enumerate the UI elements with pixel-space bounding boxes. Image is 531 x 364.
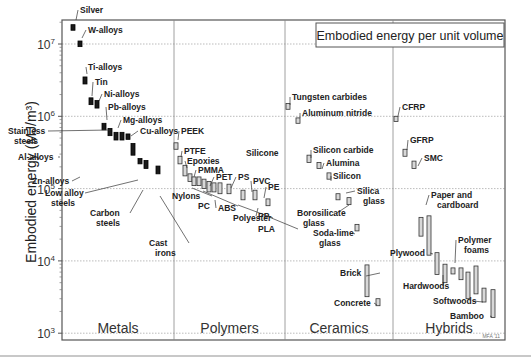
leader-line — [106, 107, 107, 120]
bottom-divider — [0, 355, 531, 357]
category-label-metals: Metals — [97, 320, 138, 336]
plot-border — [62, 20, 505, 340]
bar-paper-and-cardboard-2- — [427, 216, 431, 255]
label-polymer-foams: Polymerfoams — [458, 235, 492, 255]
bar-pb-alloys — [102, 123, 106, 130]
label-mg-alloys: Mg-alloys — [123, 115, 162, 125]
bar-polymer-foams-3- — [466, 272, 470, 299]
bar-ti-alloys — [83, 77, 87, 84]
label-softwoods: Softwoods — [433, 296, 477, 306]
label-pc: PC — [198, 201, 210, 211]
bar-plywood — [435, 253, 439, 275]
label-cfrp: CFRP — [402, 102, 425, 112]
y-axis-label: Embodied energy (MJ/m³) — [23, 101, 39, 263]
y-tick-label: 103 — [37, 326, 55, 341]
bar-pla — [266, 199, 270, 206]
y-tick-label: 107 — [37, 37, 55, 52]
bar-smc — [412, 161, 416, 168]
bar-nylons — [192, 177, 196, 186]
label-pla: PLA — [258, 224, 275, 234]
leader-line — [407, 140, 408, 150]
label-alumina: Alumina — [326, 158, 360, 168]
bar-silicon — [327, 173, 331, 179]
label-pet: PET — [216, 172, 233, 182]
bar-cfrp — [394, 116, 398, 121]
label-brick: Brick — [340, 268, 362, 278]
bar-silicon-carbide — [307, 155, 311, 162]
bar-silica-glass — [336, 194, 340, 200]
leader-line — [131, 131, 138, 136]
bar-softwoods-tall- — [474, 266, 478, 294]
category-label-ceramics: Ceramics — [309, 320, 368, 336]
leader-line — [251, 181, 252, 192]
bar-pmma — [188, 174, 192, 182]
bar-al-alloys — [120, 132, 124, 140]
category-label-hybrids: Hybrids — [425, 320, 472, 336]
leader-line — [72, 177, 80, 181]
bar-polymer-foams — [451, 268, 455, 274]
label-silicon: Silicon — [333, 171, 361, 181]
label-carbon-steels: Carbonsteels — [90, 208, 120, 228]
bar-polyester — [218, 183, 222, 194]
plot-frame — [62, 20, 505, 340]
label-silicone: Silicone — [246, 148, 279, 158]
credit-label: MFA '11 — [482, 333, 500, 339]
bar-pvc — [227, 184, 231, 193]
bar-mg-alloys — [114, 132, 118, 140]
leader-line — [99, 94, 102, 101]
leader-line — [130, 190, 143, 213]
label-smc: SMC — [424, 153, 443, 163]
label-silver: Silver — [80, 5, 104, 15]
label-peek: PEEK — [181, 126, 205, 136]
label-soda-lime-glass: Soda-limeglass — [313, 228, 354, 248]
label-pp: PP — [258, 211, 270, 221]
bar-polymer-foams-2- — [459, 268, 463, 280]
bar-stainless-steels — [108, 128, 112, 135]
bar-cast-irons — [156, 166, 160, 174]
bar-hardwoods — [443, 264, 447, 282]
label-abs: ABS — [218, 203, 236, 213]
leader-line — [76, 10, 78, 20]
label-gfrp: GFRP — [410, 135, 434, 145]
leader-line — [346, 191, 355, 193]
leader-line — [85, 180, 138, 193]
bar-zn-alloys — [131, 144, 135, 156]
label-pe: PE — [268, 182, 280, 192]
label-ps: PS — [238, 172, 250, 182]
bar-pc — [197, 177, 201, 186]
bar-tungsten-carbides — [286, 104, 290, 110]
bar-softwoods — [482, 288, 486, 302]
label-bamboo: Bamboo — [450, 311, 484, 321]
bar-ptfe — [178, 156, 182, 164]
bar-ps — [212, 183, 216, 192]
bar-pe — [253, 190, 257, 200]
label-hardwoods: Hardwoods — [403, 281, 450, 291]
bar-bamboo — [491, 290, 495, 318]
bar-brick — [365, 265, 369, 297]
y-tick-label: 104 — [37, 254, 55, 269]
chart-title: Embodied energy per unit volume — [317, 29, 504, 43]
label-low-alloy-steels: Low alloysteels — [45, 188, 84, 208]
bar-carbon-steels — [144, 160, 148, 168]
bar-w-alloys — [78, 41, 82, 47]
bar-borosilicate-glass — [347, 198, 351, 205]
leader-line — [86, 67, 87, 74]
label-paper-and-cardboard: Paper andcardboard — [431, 190, 479, 210]
label-concrete: Concrete — [334, 298, 371, 308]
leader-line — [48, 130, 110, 131]
label-borosilicate-glass: Borosilicateglass — [297, 208, 346, 228]
leader-line — [160, 196, 189, 243]
bar-soda-lime-glass — [355, 224, 359, 231]
bar-silver — [71, 25, 75, 31]
label-plywood: Plywood — [390, 248, 425, 258]
bar-cu-alloys — [126, 134, 130, 139]
bar-abs — [207, 182, 211, 192]
label-cu-alloys: Cu-alloys — [140, 126, 179, 136]
leader-line — [418, 158, 422, 166]
bar-ni-alloys — [95, 101, 99, 108]
bar-peek — [174, 143, 178, 149]
label-cast-irons: Castirons — [149, 238, 176, 258]
y-tick-label: 106 — [37, 109, 55, 124]
label-silicon-carbide: Silicon carbide — [313, 145, 374, 155]
leader-line — [82, 30, 86, 38]
